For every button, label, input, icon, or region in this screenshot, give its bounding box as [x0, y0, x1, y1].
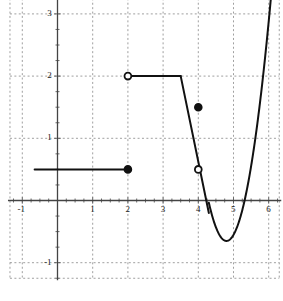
function-graph-plot: [0, 0, 283, 301]
x-tick-label-5: 5: [231, 205, 236, 214]
series-falling-line: [181, 76, 209, 213]
point-closed-point-4-15: [195, 104, 202, 111]
y-tick-label-1: 1: [47, 133, 52, 142]
x-tick-label-1: 1: [90, 205, 95, 214]
graph-figure: -1123456-1123: [0, 0, 283, 301]
x-tick-label-4: 4: [196, 205, 201, 214]
point-open-point-4-05: [195, 166, 202, 173]
x-tick-label-3: 3: [161, 205, 166, 214]
x-tick-label-2: 2: [126, 205, 131, 214]
point-open-point-2-2: [125, 73, 132, 80]
series-parabola: [209, 0, 272, 241]
y-tick-label-2: 2: [47, 71, 52, 80]
x-tick-label-6: 6: [266, 205, 271, 214]
x-tick-label--1: -1: [18, 205, 26, 214]
y-tick-label-3: 3: [47, 9, 52, 18]
y-tick-label--1: -1: [44, 258, 52, 267]
point-closed-point-2-05: [125, 166, 132, 173]
